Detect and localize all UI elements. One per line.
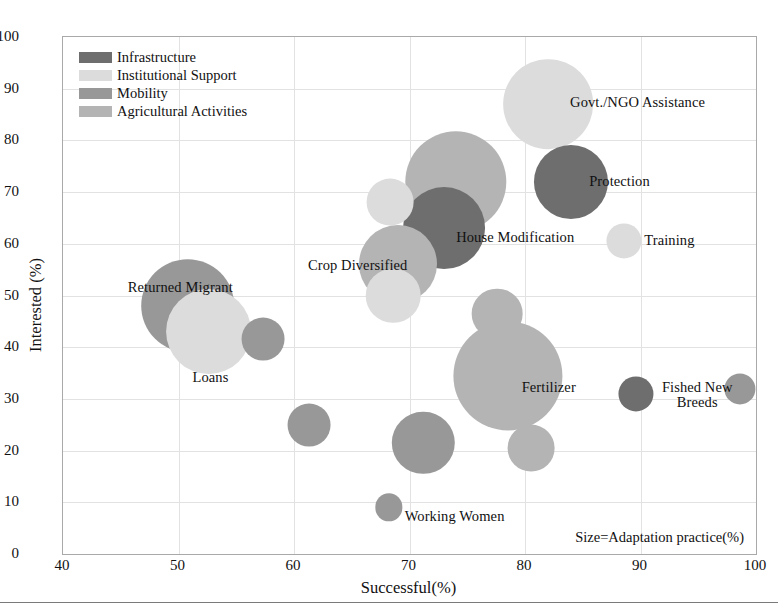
x-axis-title: Successful(%) [62,578,755,598]
legend-swatch-icon [79,88,112,99]
size-note: Size=Adaptation practice(%) [575,529,744,546]
bubble-label: Fertilizer [522,380,576,396]
plot-area: Govt./NGO AssistanceProtectionTrainingHo… [62,36,757,555]
bubble-label: Working Women [405,510,505,526]
x-tick-label: 90 [632,557,647,574]
x-tick-label: 40 [55,557,70,574]
bubble-point [288,403,331,446]
bubble-chart: Govt./NGO AssistanceProtectionTrainingHo… [0,0,778,614]
y-tick-label: 20 [4,441,19,458]
bubble-label: Training [644,233,694,249]
bubble-label: Crop Diversified [308,259,407,275]
y-tick-label: 50 [4,286,19,303]
legend-label: Mobility [117,86,168,101]
x-tick-label: 80 [517,557,532,574]
legend-swatch-icon [79,52,112,63]
bubble-point [453,321,562,430]
x-tick-label: 70 [401,557,416,574]
bubble-point [375,494,402,521]
x-tick-label: 50 [170,557,185,574]
legend-label: Infrastructure [117,50,196,65]
bubble-point [366,268,421,323]
y-tick-label: 100 [0,28,19,45]
legend-swatch-icon [79,106,112,117]
legend-swatch-icon [79,70,112,81]
legend-item[interactable]: Institutional Support [79,67,247,83]
legend: InfrastructureInstitutional SupportMobil… [79,49,247,119]
legend-label: Agricultural Activities [117,104,247,119]
y-tick-label: 60 [4,234,19,251]
bubble-label: Returned Migrant [128,280,233,296]
bubble-point [507,425,554,472]
x-tick-label: 60 [286,557,301,574]
bubble-point [392,412,454,474]
bubble-point [366,179,413,226]
y-tick-label: 40 [4,338,19,355]
bubble-label: Protection [589,174,650,190]
x-tick-label: 100 [744,557,767,574]
gridline-vertical [294,37,295,554]
bubble-point [607,224,642,259]
legend-item[interactable]: Mobility [79,85,247,101]
y-axis-title: Interested (%) [26,225,46,385]
legend-label: Institutional Support [117,68,237,83]
gridline-vertical [641,37,642,554]
y-tick-label: 10 [4,493,19,510]
y-tick-label: 0 [12,545,20,562]
bottom-rule [0,602,778,603]
legend-item[interactable]: Infrastructure [79,49,247,65]
bubble-point [166,289,252,375]
y-tick-label: 70 [4,183,19,200]
y-tick-label: 30 [4,389,19,406]
bubble-label: House Modification [456,230,574,246]
bubble-label: Fished New Breeds [662,380,733,411]
y-tick-label: 90 [4,79,19,96]
bubble-point [618,376,653,411]
bubble-label: Govt./NGO Assistance [570,95,705,111]
bubble-label: Loans [193,370,229,386]
y-tick-label: 80 [4,131,19,148]
bubble-point [241,318,284,361]
legend-item[interactable]: Agricultural Activities [79,103,247,119]
